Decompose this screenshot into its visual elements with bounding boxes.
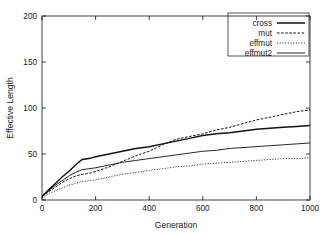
x-tick-label: 800 xyxy=(250,204,264,213)
legend-label-cross: cross xyxy=(252,19,272,28)
y-tick-label: 0 xyxy=(32,196,37,205)
x-tick-label: 400 xyxy=(142,204,156,213)
series-line-effmut xyxy=(42,158,310,198)
line-chart: 02004006008001000 050100150200 Generatio… xyxy=(0,0,322,234)
x-tick-label: 200 xyxy=(89,204,103,213)
legend-label-effmut2: effmut2 xyxy=(245,49,273,58)
x-tick-label: 0 xyxy=(40,204,45,213)
x-tick-label: 1000 xyxy=(301,204,320,213)
legend-label-mut: mut xyxy=(258,29,272,38)
series-line-mut xyxy=(42,110,310,196)
y-tick-label: 50 xyxy=(28,150,38,159)
y-tick-label: 200 xyxy=(23,12,37,21)
x-axis-title: Generation xyxy=(155,220,198,230)
chart-legend: crossmuteffmuteffmut2 xyxy=(228,13,309,58)
x-tick-labels: 02004006008001000 xyxy=(40,204,320,213)
y-tick-label: 100 xyxy=(23,104,37,113)
chart-figure: 02004006008001000 050100150200 Generatio… xyxy=(0,0,322,234)
series-line-cross xyxy=(42,125,310,196)
y-tick-label: 150 xyxy=(23,58,37,67)
series-line-effmut2 xyxy=(42,143,310,196)
y-tick-labels: 050100150200 xyxy=(23,12,37,205)
series-lines xyxy=(42,110,310,197)
x-tick-label: 600 xyxy=(196,204,210,213)
legend-label-effmut: effmut xyxy=(249,39,272,48)
y-axis-title: Effective Length xyxy=(5,77,15,139)
